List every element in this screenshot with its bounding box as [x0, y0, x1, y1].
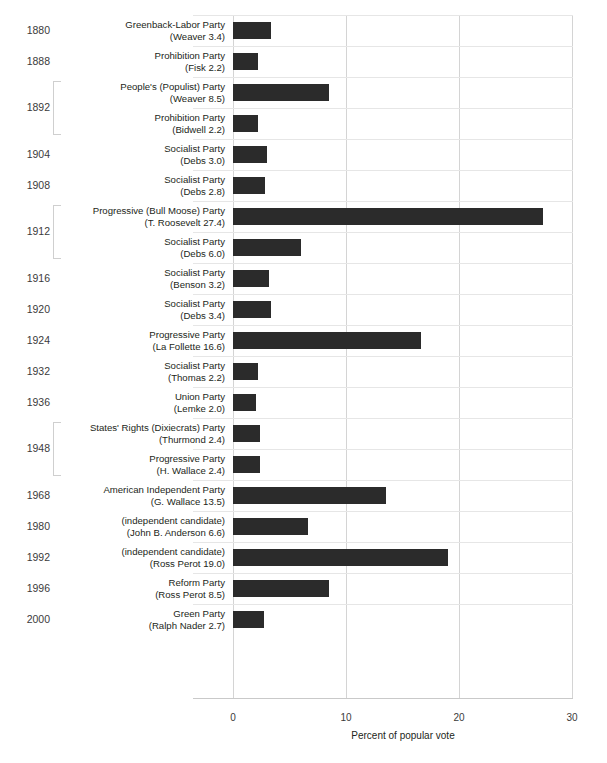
chart-row: 2000Green Party(Ralph Nader 2.7)	[0, 604, 607, 635]
bar	[233, 611, 264, 628]
bar	[233, 549, 448, 566]
candidate-and-percent: (Ross Perot 8.5)	[62, 589, 225, 601]
candidate-and-percent: (Thurmond 2.4)	[62, 434, 225, 446]
year-label: 1880	[8, 15, 50, 46]
chart-row: 1936Union Party(Lemke 2.0)	[0, 387, 607, 418]
party-label: States' Rights (Dixiecrats) Party(Thurmo…	[62, 422, 225, 445]
party-name: Progressive Party	[149, 453, 225, 464]
bar	[233, 332, 421, 349]
row-separator	[193, 480, 573, 481]
party-label: Reform Party(Ross Perot 8.5)	[62, 577, 225, 600]
party-name: Socialist Party	[164, 298, 225, 309]
candidate-and-percent: (Lemke 2.0)	[62, 403, 225, 415]
chart-row: 1920Socialist Party(Debs 3.4)	[0, 294, 607, 325]
chart-row: 1996Reform Party(Ross Perot 8.5)	[0, 573, 607, 604]
bar	[233, 177, 265, 194]
chart-row: Progressive Party(H. Wallace 2.4)	[0, 449, 607, 480]
party-label: Progressive Party(La Follette 16.6)	[62, 329, 225, 352]
row-separator	[193, 201, 573, 202]
party-label: Green Party(Ralph Nader 2.7)	[62, 608, 225, 631]
year-label: 1908	[8, 170, 50, 201]
party-name: Socialist Party	[164, 360, 225, 371]
party-label: Socialist Party(Debs 3.4)	[62, 298, 225, 321]
year-group-bracket	[53, 205, 61, 259]
row-separator	[193, 604, 573, 605]
party-name: Green Party	[173, 608, 225, 619]
bar	[233, 239, 301, 256]
party-name: Socialist Party	[164, 174, 225, 185]
bar	[233, 456, 260, 473]
row-separator	[193, 46, 573, 47]
bar	[233, 580, 329, 597]
chart-row: States' Rights (Dixiecrats) Party(Thurmo…	[0, 418, 607, 449]
party-name: States' Rights (Dixiecrats) Party	[90, 422, 225, 433]
bar	[233, 487, 386, 504]
x-axis-line-extension	[193, 698, 233, 699]
candidate-and-percent: (Benson 3.2)	[62, 279, 225, 291]
candidate-and-percent: (Bidwell 2.2)	[62, 124, 225, 136]
party-label: Greenback-Labor Party(Weaver 3.4)	[62, 19, 225, 42]
chart-row: People's (Populist) Party(Weaver 8.5)	[0, 77, 607, 108]
party-name: Prohibition Party	[155, 50, 225, 61]
year-label: 1904	[8, 139, 50, 170]
row-separator	[193, 15, 573, 16]
party-name: (independent candidate)	[122, 515, 225, 526]
chart-row: 1924Progressive Party(La Follette 16.6)	[0, 325, 607, 356]
row-separator	[193, 387, 573, 388]
bar	[233, 363, 258, 380]
row-separator	[193, 170, 573, 171]
bar	[233, 394, 256, 411]
candidate-and-percent: (G. Wallace 13.5)	[62, 496, 225, 508]
candidate-and-percent: (Fisk 2.2)	[62, 62, 225, 74]
chart-row: 1980(independent candidate)(John B. Ande…	[0, 511, 607, 542]
party-label: Socialist Party(Debs 2.8)	[62, 174, 225, 197]
row-separator	[193, 263, 573, 264]
candidate-and-percent: (Debs 3.4)	[62, 310, 225, 322]
row-separator	[193, 511, 573, 512]
party-label: People's (Populist) Party(Weaver 8.5)	[62, 81, 225, 104]
chart-row: 1932Socialist Party(Thomas 2.2)	[0, 356, 607, 387]
year-label: 1936	[8, 387, 50, 418]
candidate-and-percent: (Debs 3.0)	[62, 155, 225, 167]
party-name: Progressive (Bull Moose) Party	[93, 205, 225, 216]
year-group-bracket	[53, 422, 61, 476]
chart-row: 1880Greenback-Labor Party(Weaver 3.4)	[0, 15, 607, 46]
row-separator	[193, 356, 573, 357]
party-label: (independent candidate)(John B. Anderson…	[62, 515, 225, 538]
x-axis-line	[233, 698, 573, 699]
year-label: 1996	[8, 573, 50, 604]
party-label: American Independent Party(G. Wallace 13…	[62, 484, 225, 507]
year-label: 1888	[8, 46, 50, 77]
bar	[233, 84, 329, 101]
candidate-and-percent: (Weaver 8.5)	[62, 93, 225, 105]
party-label: Progressive (Bull Moose) Party(T. Roosev…	[62, 205, 225, 228]
chart-row: 1968American Independent Party(G. Wallac…	[0, 480, 607, 511]
year-label: 1920	[8, 294, 50, 325]
year-label: 1980	[8, 511, 50, 542]
row-separator	[193, 449, 573, 450]
row-separator	[193, 108, 573, 109]
candidate-and-percent: (Ralph Nader 2.7)	[62, 620, 225, 632]
party-name: Greenback-Labor Party	[125, 19, 225, 30]
row-separator	[193, 542, 573, 543]
bar	[233, 146, 267, 163]
chart-row: 1992(independent candidate)(Ross Perot 1…	[0, 542, 607, 573]
group-year-label: 1948	[8, 442, 50, 454]
party-name: People's (Populist) Party	[120, 81, 225, 92]
party-label: Prohibition Party(Bidwell 2.2)	[62, 112, 225, 135]
candidate-and-percent: (Debs 2.8)	[62, 186, 225, 198]
chart-row: Socialist Party(Debs 6.0)	[0, 232, 607, 263]
chart-row: 1904Socialist Party(Debs 3.0)	[0, 139, 607, 170]
row-separator	[193, 418, 573, 419]
year-group-bracket	[53, 81, 61, 135]
party-label: Union Party(Lemke 2.0)	[62, 391, 225, 414]
year-label: 1916	[8, 263, 50, 294]
candidate-and-percent: (Debs 6.0)	[62, 248, 225, 260]
candidate-and-percent: (T. Roosevelt 27.4)	[62, 217, 225, 229]
chart-row: Progressive (Bull Moose) Party(T. Roosev…	[0, 201, 607, 232]
candidate-and-percent: (John B. Anderson 6.6)	[62, 527, 225, 539]
bar	[233, 270, 269, 287]
group-year-label: 1892	[8, 101, 50, 113]
party-name: American Independent Party	[103, 484, 225, 495]
third-party-vote-bar-chart: 1880Greenback-Labor Party(Weaver 3.4)188…	[0, 0, 607, 763]
